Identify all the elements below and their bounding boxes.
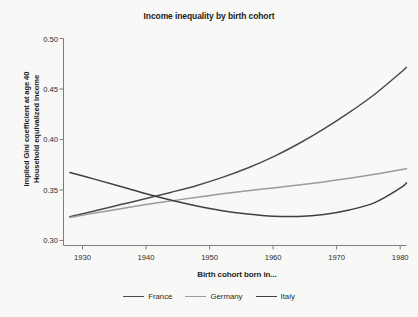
legend-swatch-icon xyxy=(256,296,277,297)
legend-label: Italy xyxy=(281,292,295,301)
line-series-france xyxy=(70,67,407,216)
legend-item-italy[interactable]: Italy xyxy=(256,292,295,301)
chart-figure: Income inequality by birth cohort Implie… xyxy=(0,0,418,317)
legend-label: France xyxy=(148,292,172,301)
legend-item-germany[interactable]: Germany xyxy=(185,292,242,301)
line-series-italy xyxy=(70,173,407,217)
chart-legend: FranceGermanyItaly xyxy=(0,292,418,301)
plot-area xyxy=(0,0,418,317)
line-series-germany xyxy=(70,169,407,218)
legend-swatch-icon xyxy=(185,296,206,297)
legend-swatch-icon xyxy=(123,296,144,297)
legend-item-france[interactable]: France xyxy=(123,292,172,301)
legend-label: Germany xyxy=(210,292,242,301)
